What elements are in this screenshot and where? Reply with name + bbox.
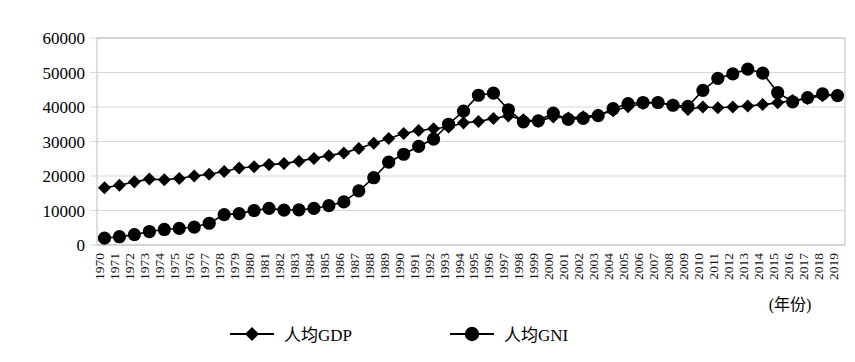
x-tick-label: 1997 <box>496 253 511 280</box>
data-point-circle <box>577 112 590 125</box>
legend: 人均GDP人均GNI <box>230 326 569 345</box>
data-point-circle <box>277 204 290 217</box>
data-point-circle <box>158 223 171 236</box>
x-tick-label: 2013 <box>736 253 751 280</box>
x-tick-label: 1974 <box>152 253 167 280</box>
x-tick-label: 1978 <box>212 253 227 280</box>
data-point-diamond <box>367 137 380 150</box>
series-gni <box>98 62 844 244</box>
y-tick-label: 60000 <box>43 29 86 48</box>
data-point-circle <box>756 67 769 80</box>
data-point-circle <box>292 203 305 216</box>
data-point-circle <box>442 118 455 131</box>
data-point-diamond <box>337 146 350 159</box>
data-point-diamond <box>741 99 754 112</box>
data-point-diamond <box>696 100 709 113</box>
data-point-diamond <box>711 101 724 114</box>
legend-label: 人均GNI <box>504 326 569 345</box>
data-point-circle <box>786 95 799 108</box>
x-tick-label: 1988 <box>362 253 377 280</box>
data-point-diamond <box>248 160 261 173</box>
x-tick-label: 1996 <box>481 253 496 280</box>
data-point-diamond <box>203 168 216 181</box>
x-tick-label: 2015 <box>766 253 781 280</box>
data-point-circle <box>517 115 530 128</box>
data-point-circle <box>547 107 560 120</box>
data-point-circle <box>532 114 545 127</box>
x-tick-label: 1982 <box>272 253 287 280</box>
data-point-circle <box>397 148 410 161</box>
x-tick-label: 2004 <box>601 253 616 280</box>
data-point-diamond <box>233 162 246 175</box>
x-tick-label: 2001 <box>556 253 571 280</box>
x-tick-label: 2018 <box>811 253 826 280</box>
y-tick-label: 0 <box>77 236 86 255</box>
x-tick-label: 2012 <box>721 253 736 280</box>
x-tick-label: 1986 <box>332 253 347 280</box>
data-point-circle <box>98 232 111 245</box>
x-axis-caption: (年份) <box>769 296 812 314</box>
data-point-circle <box>203 217 216 230</box>
legend-item-gni[interactable]: 人均GNI <box>450 326 569 345</box>
x-tick-label: 1970 <box>92 253 107 280</box>
data-point-circle <box>427 132 440 145</box>
data-point-circle <box>472 89 485 102</box>
x-tick-label: 2019 <box>826 253 841 280</box>
data-point-circle <box>128 228 141 241</box>
data-point-circle <box>666 99 679 112</box>
x-tick-label: 1989 <box>377 253 392 280</box>
data-point-circle <box>337 195 350 208</box>
x-tick-label: 1984 <box>302 253 317 280</box>
data-point-diamond <box>113 179 126 192</box>
legend-marker-circle <box>465 327 479 341</box>
x-tick-label: 1991 <box>407 253 422 280</box>
data-point-circle <box>696 84 709 97</box>
data-point-circle <box>681 100 694 113</box>
data-point-diamond <box>128 175 141 188</box>
data-point-circle <box>502 103 515 116</box>
data-point-circle <box>247 204 260 217</box>
x-tick-label: 2009 <box>676 253 691 280</box>
x-tick-label: 2016 <box>781 253 796 280</box>
legend-marker-diamond <box>245 327 259 341</box>
x-tick-label: 2002 <box>571 253 586 280</box>
data-point-circle <box>143 225 156 238</box>
x-tick-label: 2014 <box>751 253 766 280</box>
data-point-diamond <box>188 169 201 182</box>
data-point-circle <box>741 62 754 75</box>
x-tick-label: 1980 <box>242 253 257 280</box>
legend-label: 人均GDP <box>284 326 352 345</box>
data-point-circle <box>113 230 126 243</box>
data-point-circle <box>322 199 335 212</box>
data-point-circle <box>382 156 395 169</box>
x-tick-label: 2000 <box>541 253 556 280</box>
data-point-diamond <box>158 173 171 186</box>
x-tick-label: 1971 <box>107 253 122 280</box>
data-point-diamond <box>277 157 290 170</box>
x-tick-label: 1999 <box>526 253 541 280</box>
data-point-diamond <box>487 112 500 125</box>
data-point-circle <box>367 171 380 184</box>
data-point-circle <box>562 113 575 126</box>
x-tick-label: 1979 <box>227 253 242 280</box>
x-tick-label: 1972 <box>122 253 137 280</box>
data-point-diamond <box>457 116 470 129</box>
x-tick-label: 1983 <box>287 253 302 280</box>
data-point-circle <box>233 207 246 220</box>
y-tick-label: 20000 <box>43 167 86 186</box>
legend-item-gdp[interactable]: 人均GDP <box>230 326 352 345</box>
data-point-circle <box>651 96 664 109</box>
y-tick-label: 30000 <box>43 133 86 152</box>
data-point-diamond <box>397 127 410 140</box>
data-point-circle <box>307 202 320 215</box>
data-point-circle <box>816 87 829 100</box>
x-tick-label: 1998 <box>511 253 526 280</box>
x-tick-label: 2007 <box>646 253 661 280</box>
x-tick-label: 1976 <box>182 253 197 280</box>
x-tick-label: 2006 <box>631 253 646 280</box>
x-tick-label: 1985 <box>317 253 332 280</box>
x-tick-label: 2010 <box>691 253 706 280</box>
data-point-circle <box>218 208 231 221</box>
data-point-circle <box>188 220 201 233</box>
data-point-diamond <box>98 181 111 194</box>
